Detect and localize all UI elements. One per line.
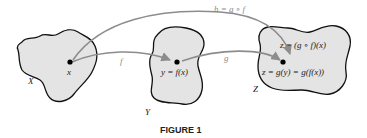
set-z-label: Z xyxy=(253,84,259,94)
point-z xyxy=(280,59,285,64)
arrow-g-label: g xyxy=(224,53,229,63)
point-z-top-label: z = (g ∘ f)(x) xyxy=(279,40,326,50)
set-x-label: X xyxy=(27,76,34,86)
point-z-bottom-label: z = g(y) = g(f(x)) xyxy=(261,67,324,77)
set-y-label: Y xyxy=(145,107,151,117)
composition-diagram: x y = f(x) z = (g ∘ f)(x) z = g(y) = g(f… xyxy=(0,0,367,138)
set-y-region xyxy=(150,27,204,104)
figure-caption: FIGURE 1 xyxy=(160,125,202,135)
point-y xyxy=(174,59,179,64)
point-x-label: x xyxy=(66,67,71,77)
arrow-f-label: f xyxy=(120,56,124,66)
point-y-label: y = f(x) xyxy=(160,67,188,77)
set-z-region xyxy=(258,26,350,95)
point-x xyxy=(67,59,72,64)
set-x-region xyxy=(17,30,97,102)
arrow-h-label: h = g ∘ f xyxy=(214,4,246,14)
